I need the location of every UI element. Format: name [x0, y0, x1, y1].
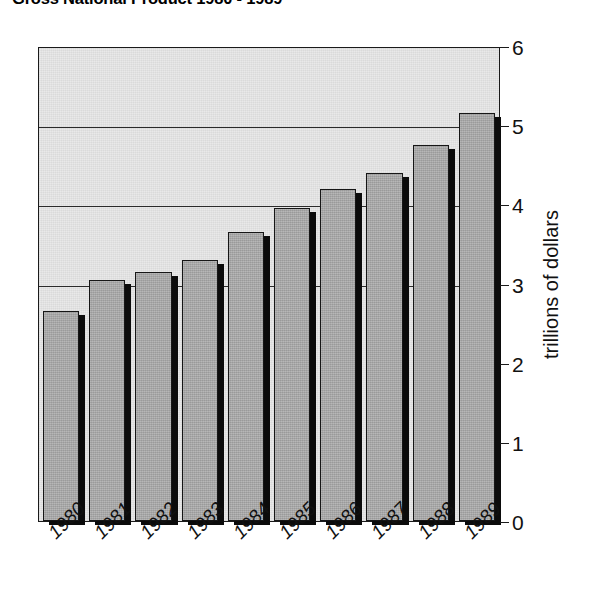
y-axis: 0123456: [500, 47, 530, 522]
bar-face: [43, 311, 79, 521]
bar-face: [274, 208, 310, 521]
x-axis: 1980198119821983198419851986198719881989: [38, 522, 500, 612]
y-tick-mark: [500, 522, 509, 523]
bar-1988[interactable]: [413, 145, 449, 521]
y-tick-label: 5: [512, 116, 524, 137]
y-tick-label: 3: [512, 274, 524, 295]
bar-face: [413, 145, 449, 521]
bar-1986[interactable]: [320, 189, 356, 522]
bar-1983[interactable]: [182, 260, 218, 521]
y-tick-mark: [500, 443, 509, 444]
y-tick-mark: [500, 47, 509, 48]
y-axis-title-label: trillions of dollars: [540, 210, 563, 359]
y-tick-label: 0: [512, 512, 524, 533]
bar-1981[interactable]: [89, 280, 125, 521]
page-title: Gross National Product 1980 - 1989: [12, 0, 282, 8]
y-tick-label: 1: [512, 432, 524, 453]
bar-1982[interactable]: [135, 272, 171, 521]
y-tick-label: 2: [512, 353, 524, 374]
bar-1980[interactable]: [43, 311, 79, 521]
y-tick-mark: [500, 285, 509, 286]
bar-face: [366, 173, 402, 521]
bar-face: [459, 113, 495, 521]
y-tick-mark: [500, 364, 509, 365]
y-tick-mark: [500, 126, 509, 127]
bar-face: [228, 232, 264, 521]
bar-1987[interactable]: [366, 173, 402, 521]
y-tick-mark: [500, 205, 509, 206]
chart-plot-area: [38, 47, 500, 522]
bar-1989[interactable]: [459, 113, 495, 521]
bar-1984[interactable]: [228, 232, 264, 521]
y-tick-label: 6: [512, 37, 524, 58]
bar-face: [182, 260, 218, 521]
bar-series: [39, 48, 499, 521]
bar-face: [89, 280, 125, 521]
bar-face: [320, 189, 356, 522]
bar-1985[interactable]: [274, 208, 310, 521]
bar-face: [135, 272, 171, 521]
y-tick-label: 4: [512, 195, 524, 216]
y-axis-title: trillions of dollars: [536, 47, 566, 522]
